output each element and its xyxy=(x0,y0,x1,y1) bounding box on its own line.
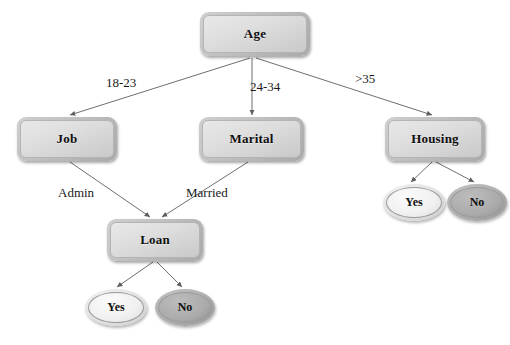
node-age-label: Age xyxy=(244,26,266,42)
node-housing-label: Housing xyxy=(411,131,459,147)
edge-age-housing xyxy=(256,58,432,115)
node-job[interactable]: Job xyxy=(17,117,117,161)
leaf-housing-no-label: No xyxy=(470,195,485,210)
edge-label-age-marital: 24-34 xyxy=(250,79,280,95)
edge-label-marital-loan: Married xyxy=(186,185,228,201)
edge-loan-no xyxy=(157,262,182,287)
edge-housing-no xyxy=(436,162,474,182)
node-loan-label: Loan xyxy=(140,232,170,248)
node-marital-label: Marital xyxy=(230,131,274,147)
edge-label-job-loan: Admin xyxy=(58,185,94,201)
node-age-body: Age xyxy=(203,15,307,53)
edge-age-job xyxy=(70,58,250,115)
node-housing-body: Housing xyxy=(388,120,482,158)
node-job-label: Job xyxy=(57,131,78,147)
leaf-loan-yes-label: Yes xyxy=(107,300,124,315)
leaf-housing-no[interactable]: No xyxy=(447,184,507,221)
edge-housing-yes xyxy=(411,162,432,182)
leaf-loan-no[interactable]: No xyxy=(155,289,215,326)
leaf-loan-yes[interactable]: Yes xyxy=(85,289,147,326)
edge-loan-yes xyxy=(117,262,153,287)
leaf-loan-no-label: No xyxy=(178,300,193,315)
node-loan[interactable]: Loan xyxy=(107,219,203,261)
node-marital-body: Marital xyxy=(202,120,301,158)
leaf-housing-yes-label: Yes xyxy=(405,195,422,210)
leaf-loan-no-body: No xyxy=(158,292,212,323)
leaf-loan-yes-body: Yes xyxy=(88,292,144,323)
edge-label-age-housing: >35 xyxy=(355,71,375,87)
edge-label-age-job: 18-23 xyxy=(106,75,136,91)
node-job-body: Job xyxy=(20,120,114,158)
node-age[interactable]: Age xyxy=(200,12,310,56)
node-loan-body: Loan xyxy=(110,222,200,258)
decision-tree-diagram: Age Job Marital Housing Loan Yes No xyxy=(0,0,510,345)
leaf-housing-yes-body: Yes xyxy=(386,187,442,218)
leaf-housing-yes[interactable]: Yes xyxy=(383,184,445,221)
node-marital[interactable]: Marital xyxy=(199,117,304,161)
leaf-housing-no-body: No xyxy=(450,187,504,218)
node-housing[interactable]: Housing xyxy=(385,117,485,161)
